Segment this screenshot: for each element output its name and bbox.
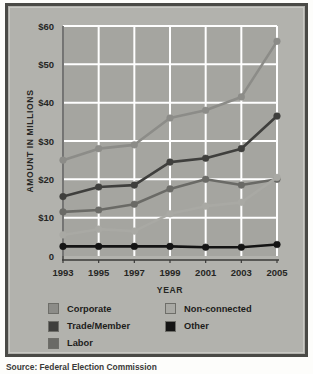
x-tick-label: 1997 — [124, 267, 145, 278]
legend-label-trade_member: Trade/Member — [67, 321, 130, 331]
legend-label-labor: Labor — [67, 338, 93, 348]
legend-label-other: Other — [184, 321, 209, 331]
x-tick-label: 2001 — [195, 267, 217, 278]
x-tick-label: 1993 — [52, 267, 73, 278]
legend-swatch-non_connected — [165, 303, 176, 314]
x-axis-title: YEAR — [157, 285, 183, 295]
legend-swatch-labor — [48, 338, 59, 349]
legend-column-2: Non-connectedOther — [165, 300, 252, 335]
y-tick-label: $60 — [38, 21, 54, 32]
y-axis-tick-labels: 0$10$20$30$40$50$60 — [38, 21, 54, 262]
legend-swatch-trade_member — [48, 321, 59, 332]
y-tick-label: $50 — [38, 59, 54, 70]
legend-label-corporate: Corporate — [67, 304, 111, 314]
chart-screenshot: 0$10$20$30$40$50$60 19931995199719992001… — [0, 0, 313, 374]
y-tick-label: $30 — [38, 136, 54, 147]
x-tick-label: 2005 — [266, 267, 288, 278]
gridlines — [63, 26, 277, 256]
legend-item-labor[interactable]: Labor — [48, 335, 130, 352]
legend-item-corporate[interactable]: Corporate — [48, 300, 130, 317]
x-tick-label: 2003 — [231, 267, 252, 278]
legend-column-1: CorporateTrade/MemberLabor — [48, 300, 130, 352]
y-tick-label: 0 — [49, 251, 54, 262]
legend-swatch-other — [165, 321, 176, 332]
legend-item-trade_member[interactable]: Trade/Member — [48, 317, 130, 334]
y-tick-label: $40 — [38, 97, 54, 108]
legend-item-non_connected[interactable]: Non-connected — [165, 300, 252, 317]
x-axis-tick-labels: 1993199519971999200120032005 — [52, 267, 288, 278]
y-axis-title: AMOUNT IN MILLIONS — [25, 90, 35, 193]
chart-legend: CorporateTrade/MemberLaborNon-connectedO… — [48, 300, 278, 352]
x-tick-label: 1995 — [88, 267, 110, 278]
legend-label-non_connected: Non-connected — [184, 304, 252, 314]
x-tick-label: 1999 — [159, 267, 180, 278]
y-tick-label: $20 — [38, 174, 54, 185]
legend-swatch-corporate — [48, 303, 59, 314]
y-tick-label: $10 — [38, 212, 54, 223]
legend-item-other[interactable]: Other — [165, 317, 252, 334]
source-note: Source: Federal Election Commission — [6, 362, 157, 372]
